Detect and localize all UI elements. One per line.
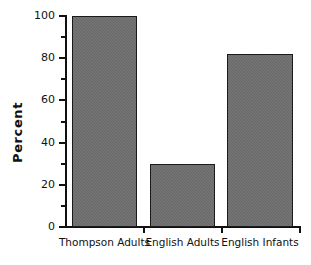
- bar-chart: Percent 020406080100 Thompson AdultsEngl…: [0, 0, 311, 265]
- y-tick-label: 40: [0, 137, 55, 148]
- y-tick-major: [59, 15, 65, 17]
- y-tick-minor: [61, 205, 65, 207]
- y-tick-major: [59, 99, 65, 101]
- y-tick-label: 80: [0, 52, 55, 63]
- bar: [150, 164, 215, 227]
- x-category-label: English Infants: [210, 236, 310, 248]
- y-tick-minor: [61, 36, 65, 38]
- y-tick-minor: [61, 78, 65, 80]
- bar: [72, 16, 137, 227]
- y-tick-label: 20: [0, 179, 55, 190]
- y-tick-minor: [61, 163, 65, 165]
- y-tick-label: 0: [0, 221, 55, 232]
- y-tick-major: [59, 184, 65, 186]
- bar: [227, 54, 293, 227]
- y-tick-major: [59, 226, 65, 228]
- y-axis-line: [65, 15, 67, 228]
- x-tick: [299, 228, 301, 233]
- x-tick: [221, 228, 223, 233]
- y-tick-label: 100: [0, 10, 55, 21]
- y-tick-minor: [61, 121, 65, 123]
- y-tick-label: 60: [0, 94, 55, 105]
- y-tick-major: [59, 57, 65, 59]
- y-tick-major: [59, 142, 65, 144]
- x-tick: [143, 228, 145, 233]
